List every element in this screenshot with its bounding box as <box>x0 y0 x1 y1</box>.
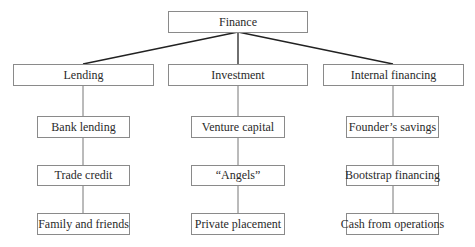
node-bank-lending: Bank lending <box>37 116 130 138</box>
node-lending: Lending <box>13 64 154 86</box>
node-label: Investment <box>211 68 264 83</box>
node-label: Founder’s savings <box>349 120 436 135</box>
node-label: Trade credit <box>55 168 113 183</box>
node-internal-financing: Internal financing <box>323 64 464 86</box>
node-family-and-friends: Family and friends <box>37 213 130 235</box>
node-label: Cash from operations <box>341 217 444 232</box>
node-label: Private placement <box>195 217 281 232</box>
node-label: Bank lending <box>51 120 115 135</box>
node-label: Finance <box>219 15 257 30</box>
node-label: Internal financing <box>351 68 437 83</box>
node-bootstrap-financing: Bootstrap financing <box>346 165 439 186</box>
node-angels: “Angels” <box>191 165 285 186</box>
node-trade-credit: Trade credit <box>37 165 130 186</box>
node-label: Bootstrap financing <box>345 168 440 183</box>
node-investment: Investment <box>168 64 308 86</box>
node-founders-savings: Founder’s savings <box>346 116 439 138</box>
node-label: Venture capital <box>202 120 274 135</box>
node-venture-capital: Venture capital <box>191 116 285 138</box>
node-private-placement: Private placement <box>191 213 285 235</box>
node-label: Lending <box>64 68 104 83</box>
node-cash-from-operations: Cash from operations <box>346 213 439 235</box>
node-label: Family and friends <box>38 217 129 232</box>
node-finance: Finance <box>168 11 308 33</box>
node-label: “Angels” <box>216 168 261 183</box>
